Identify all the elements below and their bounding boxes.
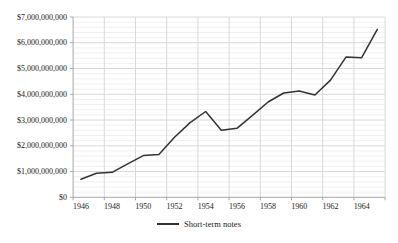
x-axis-tick-label: 1960 <box>291 202 307 211</box>
x-axis-tick-label: 1954 <box>198 202 214 211</box>
x-axis-tick-label: 1956 <box>229 202 245 211</box>
plot-area: $0$1,000,000,000$2,000,000,000$3,000,000… <box>0 0 398 243</box>
x-axis-tick-label: 1950 <box>135 202 151 211</box>
y-axis-tick-label: $4,000,000,000 <box>17 90 67 99</box>
y-axis-tick-label: $1,000,000,000 <box>17 167 67 176</box>
y-axis-tick-label: $7,000,000,000 <box>17 13 67 22</box>
y-axis-tick-label: $5,000,000,000 <box>17 64 67 73</box>
x-axis-tick-label: 1958 <box>260 202 276 211</box>
line-chart: $0$1,000,000,000$2,000,000,000$3,000,000… <box>0 0 398 243</box>
legend-label: Short-term notes <box>184 219 241 229</box>
y-axis-tick-label: $0 <box>59 193 67 202</box>
y-axis-tick-label: $2,000,000,000 <box>17 141 67 150</box>
legend-line-marker <box>157 223 179 225</box>
x-axis-tick-label: 1962 <box>323 202 339 211</box>
x-axis-tick-label: 1964 <box>354 202 370 211</box>
y-axis-tick-label: $6,000,000,000 <box>17 38 67 47</box>
x-axis-tick-label: 1946 <box>73 202 89 211</box>
x-axis-tick-label: 1948 <box>104 202 120 211</box>
legend: Short-term notes <box>0 219 398 229</box>
x-axis-tick-label: 1952 <box>167 202 183 211</box>
y-axis-tick-label: $3,000,000,000 <box>17 116 67 125</box>
